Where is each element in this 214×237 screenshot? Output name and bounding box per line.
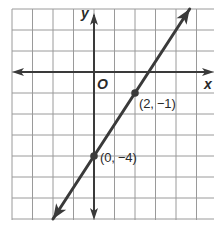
- axes: [12, 13, 214, 220]
- point-label-2-neg1: (2, −1): [139, 96, 176, 111]
- x-axis-label: x: [204, 76, 212, 92]
- origin-label: O: [97, 76, 108, 92]
- point-marker: [90, 152, 98, 160]
- point-label-0-neg4: (0, −4): [100, 150, 137, 165]
- grid-lines: [12, 9, 214, 220]
- line-top-arrow-icon: [176, 9, 189, 25]
- coordinate-plane: [0, 0, 214, 237]
- line-bottom-arrow-icon: [53, 203, 66, 219]
- y-axis-label: y: [81, 5, 89, 21]
- point-marker: [131, 89, 139, 97]
